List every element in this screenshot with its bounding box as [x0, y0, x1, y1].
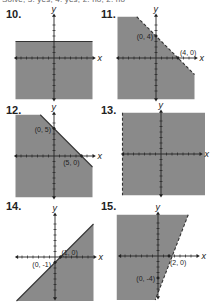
- x-axis-arrow-icon: [93, 154, 96, 158]
- x-axis-label: x: [203, 149, 209, 159]
- y-axis-arrow-down-icon: [156, 296, 160, 299]
- graph-12: xy(0, 5)(5, 0): [16, 112, 102, 198]
- graph-14: xy(1, 0)(0, -1): [17, 210, 103, 302]
- graph-13: xy: [122, 112, 208, 198]
- point-label: (0, -4): [136, 275, 155, 283]
- graph-10: xy: [14, 14, 100, 100]
- x-axis-arrow-icon: [195, 56, 198, 60]
- y-axis-label: y: [153, 4, 159, 14]
- problem-number-13: 13.: [101, 104, 116, 116]
- point-label: (4, 0): [180, 49, 196, 57]
- point-marker: [155, 35, 158, 38]
- point-marker: [177, 57, 180, 60]
- x-axis-label: x: [96, 53, 102, 63]
- point-label: (2, 0): [170, 259, 186, 267]
- x-axis-label: x: [97, 252, 103, 262]
- y-axis-arrow-down-icon: [52, 196, 56, 199]
- point-marker: [54, 261, 57, 264]
- x-axis-arrow-icon: [197, 254, 200, 258]
- y-axis-label: y: [52, 203, 58, 213]
- point-label: (5, 0): [63, 159, 79, 167]
- y-axis-arrow-down-icon: [159, 194, 163, 197]
- header-partial-text: Solve, 3. yes, 4. yes, 2. no, 2. no: [2, 0, 125, 4]
- problem-number-15: 15.: [101, 200, 116, 212]
- point-marker: [53, 127, 56, 130]
- point-label: (0, -1): [32, 261, 51, 269]
- problem-number-11: 11.: [101, 8, 116, 20]
- y-axis-arrow-down-icon: [52, 98, 56, 101]
- y-axis-label: y: [155, 202, 161, 212]
- x-axis-arrow-icon: [93, 56, 96, 60]
- point-marker: [59, 256, 62, 259]
- point-marker: [80, 155, 83, 158]
- y-axis-label: y: [51, 102, 57, 112]
- y-axis-label: y: [158, 100, 164, 110]
- point-label: (1, 0): [62, 249, 78, 257]
- point-marker: [157, 277, 160, 280]
- y-axis-label: y: [51, 4, 57, 14]
- graph-15: xy(2, 0)(0, -4): [118, 210, 204, 302]
- x-axis-arrow-icon: [94, 255, 97, 259]
- x-axis-label: x: [200, 251, 206, 261]
- point-label: (0, 4): [137, 33, 153, 41]
- y-axis-arrow-down-icon: [154, 98, 158, 101]
- point-marker: [168, 255, 171, 258]
- point-label: (0, 5): [35, 126, 51, 134]
- x-axis-label: x: [198, 53, 204, 63]
- graph-11: xy(0, 4)(4, 0): [118, 14, 204, 100]
- x-axis-label: x: [96, 151, 102, 161]
- x-axis-arrow-left-icon: [15, 255, 18, 259]
